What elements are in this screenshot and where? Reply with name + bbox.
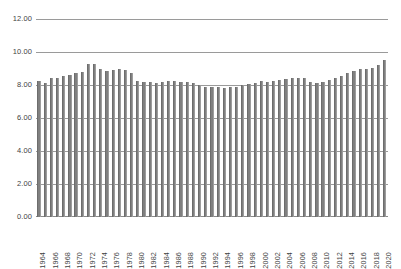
x-axis-tick-label: 1984 <box>163 252 170 269</box>
x-axis-tick-label: 2020 <box>385 252 392 269</box>
bar <box>284 79 287 217</box>
bar <box>266 82 269 217</box>
bar <box>130 73 133 217</box>
bar <box>223 88 226 217</box>
x-axis-tick-label: 1988 <box>187 252 194 269</box>
x-axis-tick-label: 1970 <box>76 252 83 269</box>
plot-area <box>36 19 388 217</box>
bar <box>112 70 115 217</box>
x-axis-tick-label: 2018 <box>373 252 380 269</box>
bar <box>186 82 189 217</box>
x-axis-tick-label: 1990 <box>200 252 207 269</box>
bar <box>303 78 306 217</box>
bar <box>217 87 220 217</box>
y-axis-tick-label: 0.00 <box>0 213 32 221</box>
bar <box>315 83 318 217</box>
bar <box>142 82 145 217</box>
bar <box>241 85 244 217</box>
bar <box>93 64 96 217</box>
bar <box>254 83 257 217</box>
bar <box>124 70 127 217</box>
bar <box>272 81 275 217</box>
x-axis-tick-label: 1996 <box>237 252 244 269</box>
x-axis-tick-label: 1978 <box>126 252 133 269</box>
bar <box>149 82 152 217</box>
bar <box>309 82 312 217</box>
x-axis-tick-label: 2002 <box>274 252 281 269</box>
bar <box>74 73 77 217</box>
y-axis-tick-label: 8.00 <box>0 81 32 89</box>
x-axis-labels: 1964196619681970197219741976197819801982… <box>36 219 388 254</box>
x-axis-tick-label: 2004 <box>286 252 293 269</box>
bar-series <box>36 19 388 217</box>
bar <box>210 87 213 217</box>
bar <box>50 78 53 217</box>
x-axis-tick-label: 1968 <box>64 252 71 269</box>
bar <box>247 84 250 217</box>
bar <box>136 81 139 217</box>
bar <box>352 71 355 217</box>
bar <box>291 78 294 217</box>
bar <box>346 73 349 217</box>
x-axis-tick-label: 1994 <box>224 252 231 269</box>
x-axis-tick-label: 2016 <box>360 252 367 269</box>
bar <box>81 72 84 217</box>
bar <box>118 69 121 217</box>
y-axis-tick-label: 12.00 <box>0 15 32 23</box>
bar <box>99 69 102 217</box>
bar <box>377 65 380 217</box>
bar <box>198 85 201 217</box>
x-axis-tick-label: 1980 <box>138 252 145 269</box>
bar <box>192 83 195 217</box>
bar <box>44 83 47 217</box>
x-axis-tick-label: 1972 <box>89 252 96 269</box>
x-axis-tick-label: 1982 <box>150 252 157 269</box>
bar <box>105 71 108 217</box>
bar <box>173 81 176 217</box>
bar <box>235 87 238 217</box>
x-axis-tick-label: 1998 <box>249 252 256 269</box>
bar <box>260 81 263 217</box>
bar <box>155 83 158 217</box>
y-axis-tick-label: 6.00 <box>0 114 32 122</box>
x-axis-tick-label: 1976 <box>113 252 120 269</box>
bar <box>297 78 300 217</box>
bar <box>62 76 65 217</box>
bar <box>87 64 90 217</box>
x-axis-tick-label: 2006 <box>299 252 306 269</box>
y-axis-tick-label: 2.00 <box>0 180 32 188</box>
bar <box>37 81 40 217</box>
bar <box>365 69 368 217</box>
bar <box>278 80 281 217</box>
x-axis-tick-label: 1974 <box>101 252 108 269</box>
bar <box>229 87 232 217</box>
x-axis-tick-label: 1986 <box>175 252 182 269</box>
bar <box>359 69 362 218</box>
bar <box>328 80 331 217</box>
bar <box>161 82 164 217</box>
bar <box>56 78 59 217</box>
bar <box>340 76 343 217</box>
x-axis-tick-label: 1992 <box>212 252 219 269</box>
x-axis-tick-label: 2000 <box>262 252 269 269</box>
x-axis-tick-label: 2012 <box>336 252 343 269</box>
bar <box>383 60 386 217</box>
bar <box>371 68 374 217</box>
x-axis-tick-label: 2010 <box>323 252 330 269</box>
y-axis-tick-label: 10.00 <box>0 48 32 56</box>
bar <box>204 87 207 217</box>
bar <box>334 78 337 217</box>
x-axis-tick-label: 2008 <box>311 252 318 269</box>
bar <box>179 82 182 217</box>
y-axis-tick-label: 4.00 <box>0 147 32 155</box>
x-axis-tick-label: 1966 <box>52 252 59 269</box>
x-axis-tick-label: 1964 <box>39 252 46 269</box>
x-axis-tick-label: 2014 <box>348 252 355 269</box>
bar <box>321 82 324 217</box>
bar <box>167 81 170 217</box>
bar <box>68 75 71 217</box>
